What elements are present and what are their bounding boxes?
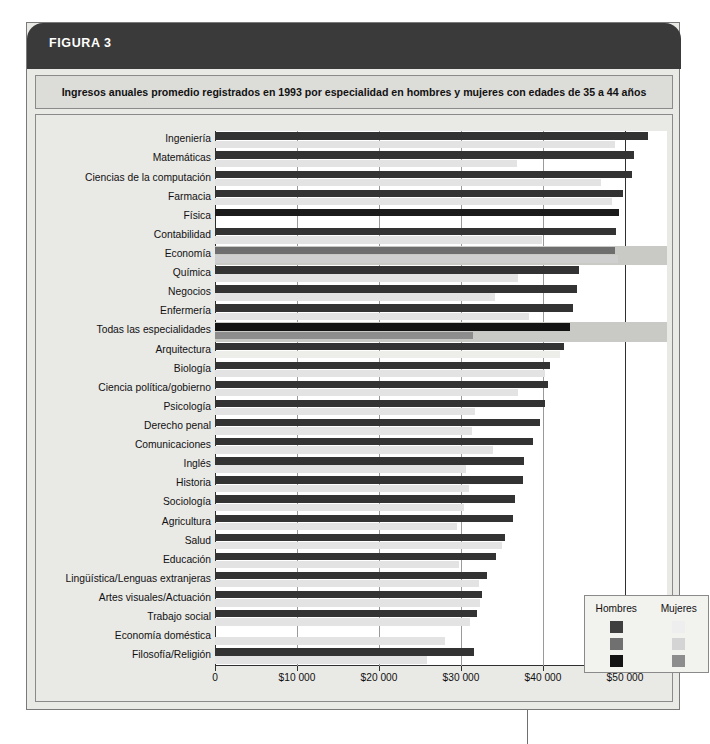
bar-men	[215, 304, 573, 311]
bar-row: Farmacia	[215, 188, 667, 207]
bar-row: Psicología	[215, 399, 667, 418]
bar-men	[215, 476, 523, 483]
bar-men	[215, 132, 648, 139]
bar-women	[215, 408, 475, 415]
x-axis-ticks: 0$10 000$20 000$30 000$40 000$50 000	[215, 671, 667, 691]
category-label: Ciencias de la computación	[0, 172, 211, 183]
figure-caption-strip: Ingresos anuales promedio registrados en…	[35, 75, 673, 109]
bar-row: Derecho penal	[215, 418, 667, 437]
bar-men	[215, 572, 487, 579]
bar-men	[215, 419, 540, 426]
legend-swatch-men	[610, 621, 623, 633]
bar-men	[215, 515, 513, 522]
category-label: Inglés	[0, 458, 211, 469]
category-label: Economía doméstica	[0, 630, 211, 641]
bar-men	[215, 381, 548, 388]
bar-row: Contabilidad	[215, 227, 667, 246]
bar-row: Biología	[215, 360, 667, 379]
category-label: Enfermería	[0, 305, 211, 316]
category-label: Historia	[0, 477, 211, 488]
legend-swatch-women-cell	[648, 621, 710, 633]
bar-row: Enfermería	[215, 303, 667, 322]
bar-row: Todas las especialidades	[215, 322, 667, 341]
figure-caption: Ingresos anuales promedio registrados en…	[56, 86, 653, 98]
legend-swatch-women	[672, 655, 685, 667]
bar-women	[215, 504, 464, 511]
bar-women	[215, 656, 427, 663]
category-label: Sociología	[0, 496, 211, 507]
category-label: Economía	[0, 248, 211, 259]
x-tick-mark-30000	[461, 666, 462, 671]
bar-row: Inglés	[215, 456, 667, 475]
bar-women	[215, 332, 473, 339]
bar-row: Educación	[215, 551, 667, 570]
bar-men	[215, 610, 477, 617]
figure-card: FIGURA 3 Ingresos anuales promedio regis…	[26, 22, 680, 710]
x-tick-label-10000: $10 000	[279, 672, 316, 683]
bar-row: Ciencias de la computación	[215, 169, 667, 188]
bar-row: Ingeniería	[215, 131, 667, 150]
legend-swatch-women-cell	[648, 655, 710, 667]
bar-men	[215, 228, 616, 235]
category-label: Negocios	[0, 286, 211, 297]
bar-women	[215, 465, 466, 472]
legend-swatch-men-cell	[585, 621, 648, 633]
bar-women	[215, 198, 612, 205]
bar-row: Química	[215, 265, 667, 284]
category-label: Filosofía/Religión	[0, 649, 211, 660]
legend-swatch-women	[672, 621, 685, 633]
bar-women	[215, 274, 518, 281]
category-label: Ingeniería	[0, 133, 211, 144]
bar-row: Lingüística/Lenguas extranjeras	[215, 570, 667, 589]
bar-men	[215, 323, 570, 330]
page-rule-vertical	[527, 710, 528, 744]
chart-plot-area: IngenieríaMatemáticasCiencias de la comp…	[215, 131, 667, 666]
category-label: Química	[0, 267, 211, 278]
bar-row: Matemáticas	[215, 150, 667, 169]
bar-men	[215, 266, 579, 273]
x-tick-label-20000: $20 000	[361, 672, 398, 683]
bar-women	[215, 599, 480, 606]
bar-women	[215, 141, 615, 148]
bar-women	[215, 637, 445, 644]
category-label: Psicología	[0, 401, 211, 412]
bar-row: Agricultura	[215, 513, 667, 532]
page-rule-top	[270, 0, 706, 3]
bar-men	[215, 534, 505, 541]
bar-women	[215, 580, 479, 587]
bar-men	[215, 285, 577, 292]
bar-men	[215, 553, 496, 560]
legend-swatch-women	[672, 638, 685, 650]
bar-men	[215, 151, 634, 158]
category-label: Lingüística/Lenguas extranjeras	[0, 573, 211, 584]
bar-women	[215, 618, 470, 625]
bar-men	[215, 190, 623, 197]
category-label: Arquitectura	[0, 344, 211, 355]
bar-women	[215, 351, 560, 358]
plot-panel: IngenieríaMatemáticasCiencias de la comp…	[35, 114, 673, 702]
legend-row	[585, 655, 710, 667]
legend-row	[585, 621, 710, 633]
bar-men	[215, 171, 632, 178]
bar-rows: IngenieríaMatemáticasCiencias de la comp…	[215, 131, 667, 666]
bar-row: Sociología	[215, 494, 667, 513]
bar-women	[215, 389, 518, 396]
bar-women	[215, 313, 529, 320]
bar-row: Economía	[215, 246, 667, 265]
bar-row: Negocios	[215, 284, 667, 303]
bar-women	[215, 293, 495, 300]
bar-men	[215, 438, 533, 445]
bar-men	[215, 400, 545, 407]
bar-men	[215, 247, 615, 254]
x-tick-label-30000: $30 000	[443, 672, 480, 683]
category-label: Ciencia política/gobierno	[0, 382, 211, 393]
category-label: Agricultura	[0, 516, 211, 527]
legend-swatch-men-cell	[585, 638, 648, 650]
bar-men	[215, 648, 474, 655]
bar-women	[215, 179, 601, 186]
bar-row: Historia	[215, 475, 667, 494]
x-tick-mark-40000	[543, 666, 544, 671]
chart-legend: Hombres Mujeres	[584, 595, 709, 673]
legend-swatch-men	[610, 638, 623, 650]
category-label: Farmacia	[0, 191, 211, 202]
